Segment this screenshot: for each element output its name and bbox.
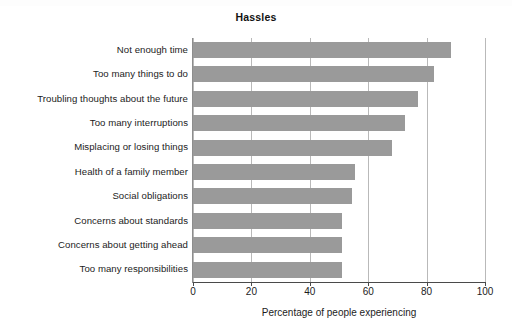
- chart-title: Hassles: [0, 11, 512, 23]
- x-axis-title: Percentage of people experiencing: [193, 307, 485, 318]
- x-axis-tick-labels: 020406080100: [0, 286, 512, 302]
- x-tick-label: 80: [407, 286, 447, 297]
- bar[interactable]: [193, 237, 342, 253]
- x-tick-label: 60: [348, 286, 388, 297]
- category-label: Troubling thoughts about the future: [2, 93, 188, 104]
- plot-area: [193, 38, 485, 282]
- bar[interactable]: [193, 140, 392, 156]
- x-tick-label: 100: [465, 286, 505, 297]
- x-tick-label: 0: [173, 286, 213, 297]
- gridline-100: [485, 38, 486, 282]
- category-label: Concerns about getting ahead: [2, 239, 188, 250]
- category-label: Misplacing or losing things: [2, 141, 188, 152]
- category-label: Not enough time: [2, 44, 188, 55]
- bar-chart-figure: Hassles Not enough timeToo many things t…: [0, 0, 512, 332]
- category-label: Health of a family member: [2, 166, 188, 177]
- bar[interactable]: [193, 91, 418, 107]
- x-axis-line: [193, 282, 486, 283]
- bar[interactable]: [193, 188, 352, 204]
- scan-noise-strip: [0, 0, 512, 6]
- category-label: Social obligations: [2, 190, 188, 201]
- category-label: Concerns about standards: [2, 215, 188, 226]
- x-tick-label: 20: [231, 286, 271, 297]
- category-axis-labels: Not enough timeToo many things to doTrou…: [0, 38, 188, 282]
- bar[interactable]: [193, 42, 451, 58]
- category-label: Too many interruptions: [2, 117, 188, 128]
- category-label: Too many things to do: [2, 68, 188, 79]
- bar[interactable]: [193, 115, 405, 131]
- category-label: Too many responsibilities: [2, 263, 188, 274]
- bar[interactable]: [193, 262, 342, 278]
- bar[interactable]: [193, 66, 434, 82]
- bar[interactable]: [193, 213, 342, 229]
- bar[interactable]: [193, 164, 355, 180]
- x-tick-label: 40: [290, 286, 330, 297]
